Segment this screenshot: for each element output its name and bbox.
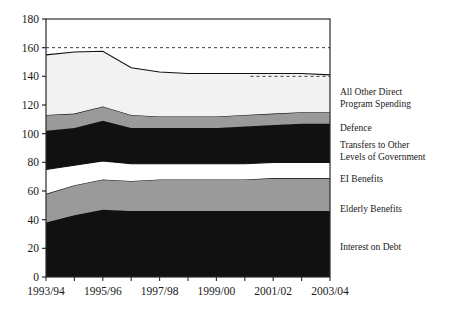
y-tick-label-120: 120: [22, 99, 40, 111]
y-tick-label-180: 180: [22, 13, 40, 25]
legend-item-interest-on-debt: Interest on Debt: [340, 242, 402, 252]
legend-label-interest-on-debt: Interest on Debt: [340, 242, 402, 252]
y-tick-label-160: 160: [22, 42, 40, 54]
legend-label-transfers-to-other-levels-of-government: Transfers to Other: [340, 140, 410, 150]
legend-label-all-other-direct-program-spending-line2: Program Spending: [340, 99, 411, 109]
legend-label-elderly-benefits: Elderly Benefits: [340, 204, 402, 214]
legend-item-ei-benefits: EI Benefits: [340, 174, 383, 184]
x-tick-label-1999-00: 1999/00: [198, 285, 236, 297]
x-tick-label-1995-96: 1995/96: [84, 285, 122, 297]
legend-label-all-other-direct-program-spending: All Other Direct: [340, 87, 403, 97]
stacked-area-chart: 0204060801001201401601801993/941995/9619…: [0, 0, 449, 317]
legend-label-defence: Defence: [340, 123, 372, 133]
legend-label-transfers-to-other-levels-of-government-line2: Levels of Government: [340, 152, 426, 162]
legend-item-elderly-benefits: Elderly Benefits: [340, 204, 402, 214]
y-tick-label-60: 60: [28, 185, 40, 197]
legend-item-all-other-direct-program-spending: All Other DirectProgram Spending: [340, 87, 411, 109]
y-tick-label-100: 100: [22, 128, 40, 140]
x-tick-label-2003-04: 2003/04: [311, 285, 349, 297]
y-tick-label-40: 40: [28, 214, 40, 226]
x-tick-label-2001-02: 2001/02: [254, 285, 292, 297]
y-tick-label-0: 0: [33, 271, 39, 283]
legend-label-ei-benefits: EI Benefits: [340, 174, 383, 184]
y-tick-label-20: 20: [28, 242, 40, 254]
area-band-interest-on-debt: [46, 210, 330, 277]
x-tick-label-1997-98: 1997/98: [141, 285, 179, 297]
y-tick-label-140: 140: [22, 70, 40, 82]
legend-item-defence: Defence: [340, 123, 372, 133]
legend-item-transfers-to-other-levels-of-government: Transfers to OtherLevels of Government: [340, 140, 426, 162]
x-tick-label-1993-94: 1993/94: [27, 285, 65, 297]
chart-canvas: 0204060801001201401601801993/941995/9619…: [0, 0, 449, 317]
y-tick-label-80: 80: [28, 156, 40, 168]
